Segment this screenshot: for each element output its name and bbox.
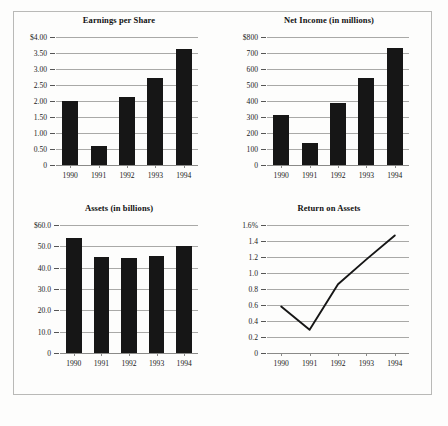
y-axis-tick <box>54 353 59 354</box>
chart-title: Assets (in billions) <box>16 203 222 213</box>
y-axis-label: 2.50 <box>16 81 47 90</box>
y-axis-label: $60.0 <box>16 221 51 230</box>
figure-page: Earnings per Share00.501.001.502.002.503… <box>0 0 448 426</box>
y-axis-tick <box>50 101 55 102</box>
x-axis-label: 1991 <box>295 171 323 180</box>
y-axis-tick <box>50 133 55 134</box>
bar <box>62 101 78 165</box>
x-axis-label: 1993 <box>352 171 380 180</box>
x-axis-label: 1990 <box>56 171 84 180</box>
y-axis-tick <box>261 117 266 118</box>
y-axis-tick <box>261 241 266 242</box>
x-axis-tick <box>338 165 339 168</box>
y-axis-tick <box>50 149 55 150</box>
y-axis-tick <box>54 268 59 269</box>
x-axis-tick <box>74 353 75 356</box>
y-axis-tick <box>261 321 266 322</box>
plot-area: 010.020.030.040.050.0$60.019901991199219… <box>60 225 198 353</box>
y-axis-tick <box>261 225 266 226</box>
x-axis-tick <box>310 165 311 168</box>
x-axis-tick <box>281 165 282 168</box>
x-axis-tick <box>157 353 158 356</box>
gridline <box>267 37 409 38</box>
y-axis-label: 0 <box>16 349 51 358</box>
plot-area: 00.20.40.60.81.01.21.41.6%19901991199219… <box>267 225 409 353</box>
bar <box>66 238 81 353</box>
x-axis-tick <box>310 353 311 356</box>
y-axis-label: 100 <box>227 145 258 154</box>
x-axis-label: 1993 <box>141 171 169 180</box>
x-axis-tick <box>338 353 339 356</box>
y-axis-label: 1.6% <box>227 221 258 230</box>
y-axis-label: 500 <box>227 81 258 90</box>
bar <box>119 97 135 165</box>
y-axis-label: 0.2 <box>227 333 258 342</box>
y-axis-tick <box>54 225 59 226</box>
x-axis-label: 1990 <box>267 171 295 180</box>
y-axis-label: $4.00 <box>16 33 47 42</box>
x-axis-label: 1991 <box>84 171 112 180</box>
y-axis-tick <box>50 117 55 118</box>
y-axis-label: 2.00 <box>16 97 47 106</box>
y-axis-label: 300 <box>227 113 258 122</box>
bar <box>273 115 289 165</box>
gridline <box>56 37 198 38</box>
y-axis-tick <box>50 85 55 86</box>
y-axis-tick <box>50 69 55 70</box>
x-axis-tick <box>99 165 100 168</box>
x-axis-tick <box>395 353 396 356</box>
x-axis-tick <box>129 353 130 356</box>
y-axis-tick <box>261 289 266 290</box>
y-axis-label: 0 <box>227 161 258 170</box>
y-axis-tick <box>261 337 266 338</box>
x-axis-label: 1990 <box>60 359 88 368</box>
chart-panel-assets: Assets (in billions)010.020.030.040.050.… <box>16 203 222 393</box>
x-axis-label: 1993 <box>143 359 171 368</box>
y-axis-tick <box>261 133 266 134</box>
y-axis-tick <box>50 165 55 166</box>
y-axis-label: 0 <box>227 349 258 358</box>
bar <box>330 103 346 165</box>
y-axis-tick <box>261 257 266 258</box>
x-axis-tick <box>366 353 367 356</box>
chart-title: Return on Assets <box>227 203 431 213</box>
plot-area: 00.501.001.502.002.503.003.50$4.00199019… <box>56 37 198 165</box>
bar <box>302 143 318 165</box>
y-axis-tick <box>261 273 266 274</box>
x-axis-label: 1991 <box>295 359 323 368</box>
y-axis-label: 0 <box>16 161 47 170</box>
bar <box>91 146 107 165</box>
x-axis-label: 1994 <box>381 359 409 368</box>
y-axis-label: 1.4 <box>227 237 258 246</box>
figure-frame: Earnings per Share00.501.001.502.002.503… <box>13 11 432 395</box>
y-axis-tick <box>261 37 266 38</box>
x-axis-tick <box>127 165 128 168</box>
x-axis-label: 1992 <box>113 171 141 180</box>
y-axis-tick <box>54 310 59 311</box>
bar <box>121 258 136 353</box>
y-axis-label: 0.50 <box>16 145 47 154</box>
x-axis-label: 1991 <box>88 359 116 368</box>
y-axis-tick <box>261 149 266 150</box>
y-axis-label: 700 <box>227 49 258 58</box>
x-axis-label: 1992 <box>324 359 352 368</box>
y-axis-tick <box>54 246 59 247</box>
x-axis-tick <box>101 353 102 356</box>
y-axis-label: 50.0 <box>16 242 51 251</box>
x-axis-tick <box>184 353 185 356</box>
y-axis-label: 0.6 <box>227 301 258 310</box>
x-axis-label: 1994 <box>170 359 198 368</box>
y-axis-tick <box>261 353 266 354</box>
y-axis-tick <box>261 165 266 166</box>
y-axis-label: 3.50 <box>16 49 47 58</box>
bar <box>176 49 192 165</box>
line-series <box>267 225 409 353</box>
y-axis-label: 0.8 <box>227 285 258 294</box>
x-axis-tick <box>184 165 185 168</box>
gridline <box>60 225 198 226</box>
y-axis-label: 10.0 <box>16 327 51 336</box>
y-axis-label: 200 <box>227 129 258 138</box>
y-axis-label: 1.2 <box>227 253 258 262</box>
y-axis-label: 400 <box>227 97 258 106</box>
y-axis-label: 1.50 <box>16 113 47 122</box>
